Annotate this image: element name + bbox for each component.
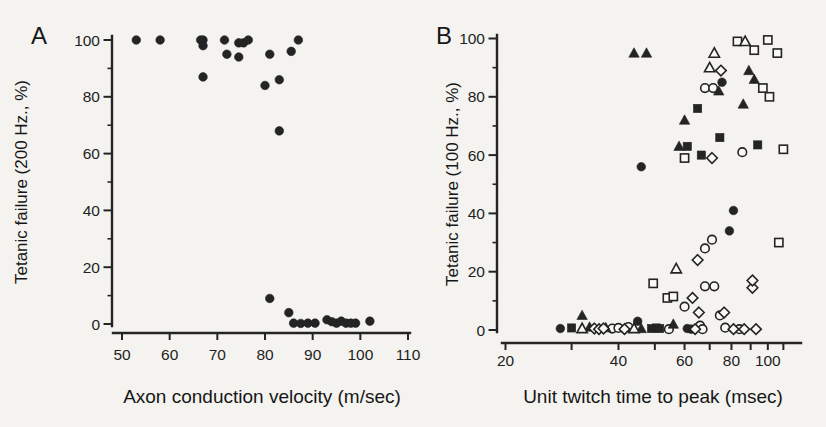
filled-circle-marker	[556, 324, 565, 333]
open-circle-marker	[701, 244, 710, 253]
open-square-marker	[773, 49, 781, 57]
filled-circle-marker	[199, 73, 208, 82]
open-diamond-marker	[687, 293, 698, 304]
filled-circle-marker	[132, 36, 141, 45]
panel-a: A Tetanic failure (200 Hz., %) Axon cond…	[0, 0, 413, 427]
y-tick-label: 60	[83, 145, 101, 162]
x-tick-label: 70	[209, 346, 227, 363]
x-tick-label: 80	[256, 346, 274, 363]
y-tick-label: 80	[468, 88, 486, 105]
filled-circle-marker	[351, 319, 360, 328]
filled-circle-marker	[366, 317, 375, 326]
x-tick-label: 100	[347, 346, 373, 363]
open-diamond-marker	[692, 255, 703, 266]
filled-triangle-marker	[641, 48, 651, 57]
open-square-marker	[750, 46, 758, 54]
open-diamond-marker	[694, 307, 705, 318]
filled-circle-marker	[637, 162, 646, 171]
open-circle-marker	[710, 282, 719, 291]
filled-circle-marker	[287, 47, 296, 56]
y-tick-label: 0	[476, 322, 485, 339]
y-tick-label: 40	[468, 205, 486, 222]
y-tick-label: 100	[459, 30, 485, 47]
open-square-marker	[759, 84, 767, 92]
panel-b-x-axis-title: Unit twitch time to peak (msec)	[523, 386, 783, 407]
series-units-open-square	[649, 36, 787, 302]
y-tick-label: 40	[83, 202, 101, 219]
y-tick-label: 20	[83, 259, 101, 276]
x-tick-label: 20	[497, 352, 515, 369]
open-circle-marker	[708, 235, 717, 244]
x-tick-label: 60	[676, 352, 694, 369]
open-diamond-marker	[707, 153, 718, 164]
panel-b-chart: B Tetanic failure (100 Hz., %) Unit twit…	[413, 0, 826, 427]
panel-a-y-axis-title: Tetanic failure (200 Hz., %)	[12, 80, 31, 284]
filled-triangle-marker	[577, 310, 587, 319]
open-circle-marker	[701, 282, 710, 291]
figure: A Tetanic failure (200 Hz., %) Axon cond…	[0, 0, 826, 427]
series-units-filled-circle	[556, 78, 738, 334]
panel-a-chart: A Tetanic failure (200 Hz., %) Axon cond…	[0, 0, 413, 427]
filled-circle-marker	[725, 227, 734, 236]
y-tick-label: 0	[91, 316, 100, 333]
panel-a-plot: 5060708090100110020406080100	[74, 32, 421, 364]
panel-b: B Tetanic failure (100 Hz., %) Unit twit…	[413, 0, 826, 427]
filled-triangle-marker	[744, 65, 754, 74]
filled-square-marker	[754, 141, 762, 149]
y-tick-label: 20	[468, 263, 486, 280]
filled-circle-marker	[261, 81, 270, 90]
filled-circle-marker	[285, 308, 294, 317]
y-tick-label: 100	[74, 32, 100, 49]
filled-circle-marker	[311, 319, 320, 328]
x-tick-label: 60	[161, 346, 179, 363]
series-motor-units	[132, 36, 374, 328]
open-square-marker	[680, 154, 688, 162]
filled-square-marker	[683, 142, 691, 150]
filled-circle-marker	[234, 53, 243, 62]
x-tick-label: 80	[723, 352, 741, 369]
filled-circle-marker	[718, 78, 727, 87]
open-square-marker	[779, 145, 787, 153]
filled-circle-marker	[223, 50, 232, 59]
open-circle-marker	[701, 84, 710, 93]
y-tick-label: 80	[83, 88, 101, 105]
open-circle-marker	[721, 323, 730, 332]
panel-a-x-axis-title: Axon conduction velocity (m/sec)	[123, 386, 401, 407]
filled-circle-marker	[244, 36, 253, 45]
panel-b-letter: B	[436, 22, 452, 49]
panel-a-letter: A	[31, 22, 47, 49]
open-triangle-marker	[671, 263, 681, 272]
filled-circle-marker	[265, 294, 274, 303]
filled-circle-marker	[294, 36, 303, 45]
series-units-filled-triangle	[577, 48, 760, 333]
open-triangle-marker	[704, 62, 714, 71]
filled-circle-marker	[265, 50, 274, 59]
open-circle-marker	[680, 302, 689, 311]
filled-circle-marker	[199, 41, 208, 50]
filled-square-marker	[567, 324, 575, 332]
filled-circle-marker	[220, 36, 229, 45]
filled-triangle-marker	[679, 115, 689, 124]
open-square-marker	[669, 292, 677, 300]
open-diamond-marker	[751, 324, 762, 335]
filled-circle-marker	[729, 206, 738, 215]
y-tick-label: 60	[468, 147, 486, 164]
x-tick-label: 40	[610, 352, 628, 369]
open-square-marker	[765, 93, 773, 101]
panel-b-y-axis-title: Tetanic failure (100 Hz., %)	[443, 82, 462, 286]
x-tick-label: 100	[755, 352, 781, 369]
open-diamond-marker	[747, 275, 758, 286]
open-square-marker	[775, 238, 783, 246]
panel-b-plot: 20406080100020406080100	[459, 30, 801, 369]
filled-square-marker	[697, 151, 705, 159]
x-tick-label: 90	[304, 346, 322, 363]
filled-triangle-marker	[629, 48, 639, 57]
open-triangle-marker	[577, 323, 587, 332]
open-triangle-marker	[709, 48, 719, 57]
filled-square-marker	[716, 134, 724, 142]
open-diamond-marker	[716, 65, 727, 76]
open-circle-marker	[738, 148, 747, 157]
open-square-marker	[649, 279, 657, 287]
filled-circle-marker	[275, 75, 284, 84]
filled-square-marker	[694, 104, 702, 112]
